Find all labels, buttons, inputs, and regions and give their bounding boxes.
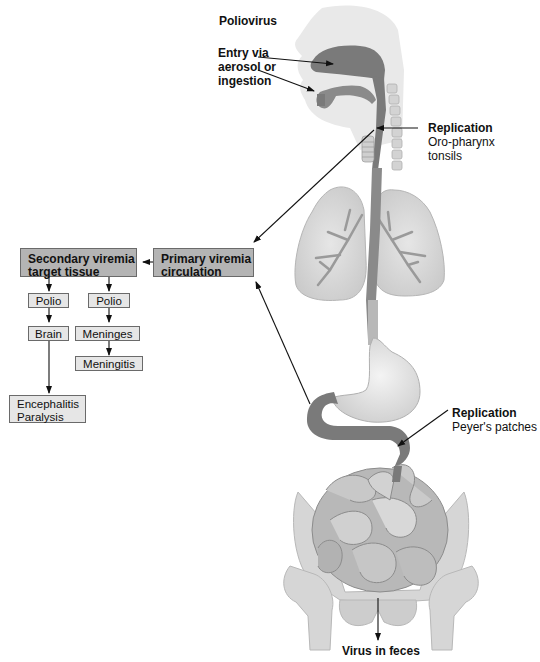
encephalitis-paralysis-box: Encephalitis Paralysis bbox=[9, 395, 86, 423]
left-polio-box: Polio bbox=[28, 293, 69, 308]
entry-label: Entry via aerosol or ingestion bbox=[218, 46, 276, 88]
entry-label-line3: ingestion bbox=[218, 74, 276, 88]
replication-oropharynx-label: Replication Oro-pharynx tonsils bbox=[428, 121, 495, 163]
replication-heading: Replication bbox=[452, 406, 537, 420]
brain-box: Brain bbox=[28, 326, 69, 341]
replication-heading: Replication bbox=[428, 121, 495, 135]
diagram-title: Poliovirus bbox=[219, 14, 277, 28]
poliovirus-pathogenesis-diagram: Poliovirus Entry via aerosol or ingestio… bbox=[0, 0, 540, 662]
replication-site-line2: tonsils bbox=[428, 149, 495, 163]
meningitis-box: Meningitis bbox=[75, 356, 143, 371]
meninges-box: Meninges bbox=[75, 326, 140, 341]
replication-site-line1: Peyer's patches bbox=[452, 420, 537, 434]
small-intestine bbox=[312, 465, 448, 592]
outcome-line2: Paralysis bbox=[17, 411, 78, 424]
exit-label: Virus in feces bbox=[342, 644, 420, 658]
secondary-viremia-line2: target tissue bbox=[28, 266, 129, 279]
entry-label-line1: Entry via bbox=[218, 46, 276, 60]
outcome-line1: Encephalitis bbox=[17, 398, 78, 411]
primary-viremia-line2: circulation bbox=[161, 266, 246, 279]
replication-site-line1: Oro-pharynx bbox=[428, 135, 495, 149]
stomach bbox=[332, 338, 420, 422]
entry-label-line2: aerosol or bbox=[218, 60, 276, 74]
primary-viremia-box: Primary viremia circulation bbox=[153, 248, 254, 277]
right-polio-box: Polio bbox=[88, 293, 130, 308]
secondary-viremia-box: Secondary viremia target tissue bbox=[20, 248, 137, 277]
replication-peyers-label: Replication Peyer's patches bbox=[452, 406, 537, 434]
